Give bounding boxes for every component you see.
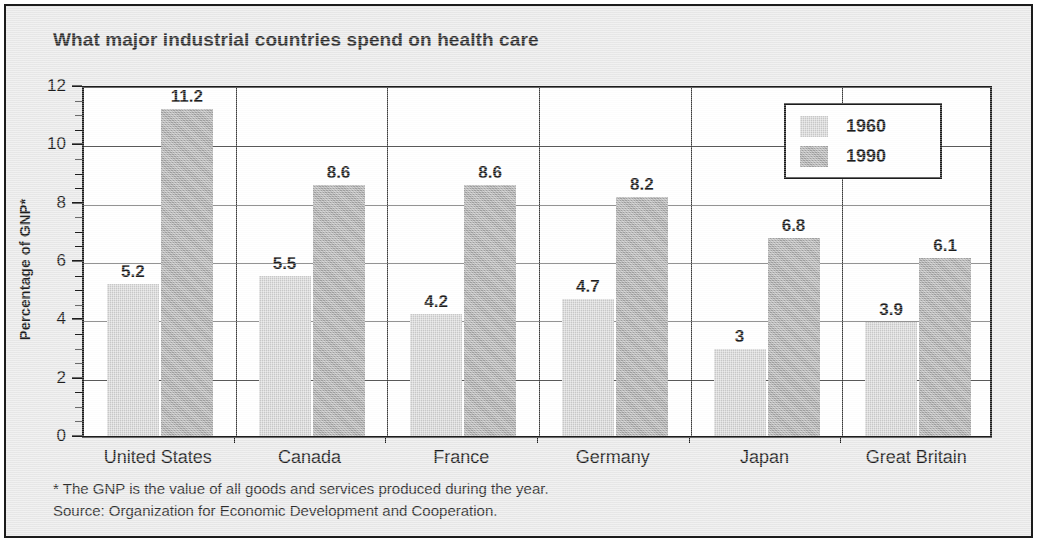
legend-label: 1990 [846,146,886,167]
y-axis-minor-tick [75,276,82,277]
y-axis-minor-tick [75,421,82,422]
bar-1960-canada [259,276,311,436]
y-axis-minor-tick [75,159,82,160]
gridline [84,321,990,322]
y-axis-tick [72,435,82,437]
group-separator [236,88,237,436]
x-axis-category-label: United States [104,447,212,468]
y-axis-minor-tick [75,217,82,218]
bar-value-label: 5.5 [273,254,297,274]
y-axis-minor-tick [75,174,82,175]
x-axis-tick [234,436,235,443]
x-axis-category-label: Germany [576,447,650,468]
bar-value-label: 4.7 [576,277,600,297]
bar-value-label: 6.1 [933,236,957,256]
group-separator [691,88,692,436]
y-axis-tick [72,377,82,379]
y-axis-tick [72,202,82,204]
y-axis-minor-tick [75,363,82,364]
legend-item-1990[interactable]: 1990 [800,144,886,168]
bar-1960-france [410,314,462,437]
legend-label: 1960 [846,116,886,137]
bar-1990-great-britain [919,258,971,436]
chart-screenshot: What major industrial countries spend on… [0,0,1041,555]
bar-1960-united-states [107,284,159,436]
y-axis-tick-label: 2 [14,368,66,388]
x-axis-category-label: Japan [740,447,789,468]
bar-1990-canada [313,185,365,436]
y-axis-minor-tick [75,305,82,306]
y-axis-tick [72,260,82,262]
plot-wrapper: 024681012 Percentage of GNP* 5.211.25.58… [6,6,1035,540]
y-axis-minor-tick [75,290,82,291]
legend-item-1960[interactable]: 1960 [800,114,886,138]
bar-1960-germany [562,299,614,436]
gridline [84,263,990,264]
y-axis-minor-tick [75,130,82,131]
y-axis-minor-tick [75,334,82,335]
bar-value-label: 3.9 [879,300,903,320]
bar-1960-japan [714,349,766,437]
x-axis-tick [689,436,690,443]
footnotes: * The GNP is the value of all goods and … [53,478,549,522]
y-axis-minor-tick [75,232,82,233]
chart-legend: 19601990 [784,103,942,179]
bar-value-label: 3 [735,327,744,347]
y-axis-tick [72,318,82,320]
y-axis-tick-label: 10 [14,134,66,154]
bar-value-label: 8.6 [478,163,502,183]
bar-1960-great-britain [865,322,917,436]
group-separator [539,88,540,436]
y-axis-minor-tick [75,246,82,247]
gridline [84,205,990,206]
footnote-line-2: Source: Organization for Economic Develo… [53,500,549,522]
x-axis-tick [840,436,841,443]
bar-value-label: 8.2 [630,175,654,195]
bar-1990-germany [616,197,668,436]
footnote-line-1: * The GNP is the value of all goods and … [53,478,549,500]
y-axis-minor-tick [75,349,82,350]
bar-value-label: 5.2 [121,262,145,282]
legend-swatch-1960 [800,116,828,137]
y-axis-minor-tick [75,115,82,116]
group-separator [387,88,388,436]
y-axis-tick-label: 0 [14,426,66,446]
bar-value-label: 11.2 [171,87,203,107]
y-axis-tick [72,85,82,87]
bar-1990-united-states [161,109,213,436]
y-axis-tick-label: 12 [14,76,66,96]
x-axis-category-label: France [433,447,489,468]
x-axis-category-label: Great Britain [866,447,967,468]
bar-value-label: 8.6 [327,163,351,183]
y-axis-minor-tick [75,101,82,102]
bar-value-label: 6.8 [782,216,806,236]
x-axis-tick [537,436,538,443]
y-axis-tick [72,143,82,145]
y-axis-minor-tick [75,188,82,189]
y-axis-title: Percentage of GNP* [16,170,33,370]
y-axis-minor-tick [75,392,82,393]
x-axis-tick [385,436,386,443]
bar-1990-japan [768,238,820,436]
chart-card: What major industrial countries spend on… [4,4,1033,538]
x-axis-category-label: Canada [278,447,341,468]
y-axis-minor-tick [75,407,82,408]
bar-1990-france [464,185,516,436]
bar-value-label: 4.2 [424,292,448,312]
gridline [84,380,990,381]
legend-swatch-1990 [800,146,828,167]
